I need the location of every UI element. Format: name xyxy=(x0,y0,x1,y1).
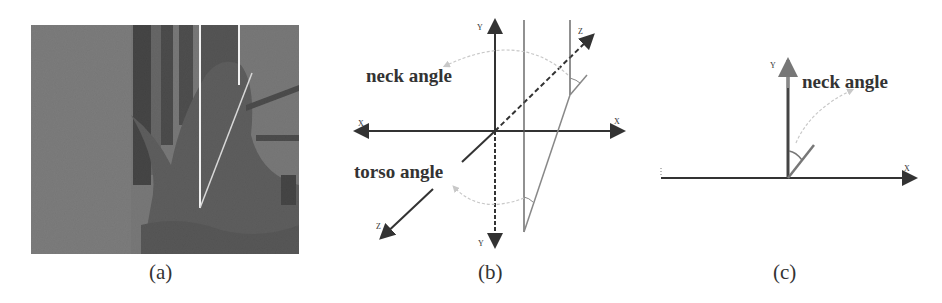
neck-angle-arrow xyxy=(445,50,568,75)
torso-angle-label: torso angle xyxy=(354,161,443,182)
neck-angle-mark xyxy=(789,151,802,160)
3d-axes-diagram: neck angle torso angle Y Y X X Z Z xyxy=(330,0,650,303)
posture-photo xyxy=(31,25,299,254)
y-pos-label: Y xyxy=(477,23,483,32)
x-label: X xyxy=(904,164,910,173)
z-pos-label: Z xyxy=(578,27,583,36)
x-neg-label: X xyxy=(358,119,364,128)
y-neg-label: Y xyxy=(478,239,484,248)
neck-line xyxy=(570,75,587,95)
2d-axes-diagram: neck angle Y X xyxy=(640,0,942,303)
torso-angle-arrow xyxy=(454,187,524,204)
neck-angle-arrow xyxy=(796,90,852,143)
caption-b: (b) xyxy=(478,260,503,285)
neck-angle-mark xyxy=(570,78,580,83)
y-label: Y xyxy=(770,61,776,70)
neck-angle-label: neck angle xyxy=(802,71,888,92)
x-pos-label: X xyxy=(614,117,620,126)
photo-illustration xyxy=(31,25,299,254)
z-axis-negative-upper xyxy=(462,131,495,162)
panel-a: (a) xyxy=(0,0,320,303)
caption-a: (a) xyxy=(149,260,172,285)
torso-line xyxy=(524,95,570,232)
neck-angle-label: neck angle xyxy=(366,65,452,86)
caption-c: (c) xyxy=(773,260,796,285)
z-neg-label: Z xyxy=(376,222,381,231)
z-axis-negative-lower xyxy=(382,189,433,237)
panel-c: neck angle Y X (c) xyxy=(640,0,942,303)
panel-b: neck angle torso angle Y Y X X Z Z (b) xyxy=(330,0,650,303)
neck-line xyxy=(788,145,814,178)
torso-angle-mark xyxy=(524,197,533,202)
